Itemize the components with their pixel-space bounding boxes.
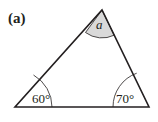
triangle-diagram: a 60° 70° [0, 0, 158, 122]
angle-label-top: a [96, 17, 103, 32]
angle-label-bottom-left: 60° [32, 91, 50, 106]
angle-label-bottom-right: 70° [116, 91, 134, 106]
